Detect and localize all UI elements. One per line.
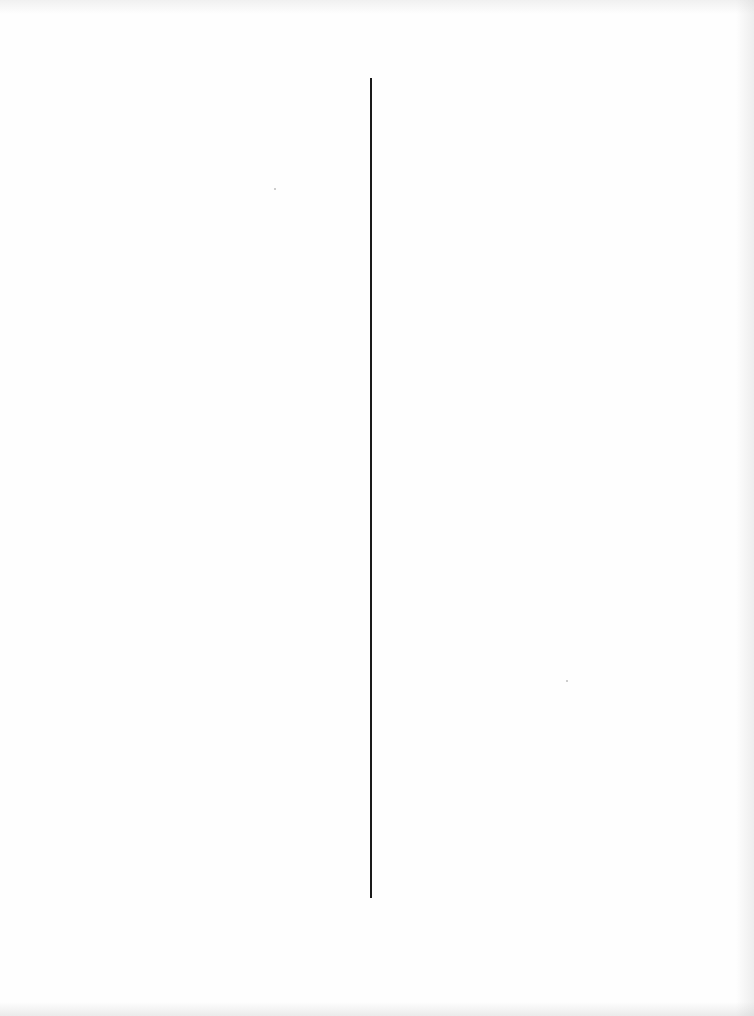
scan-shadow-top — [0, 0, 754, 14]
vertical-divider-line — [370, 78, 372, 898]
scanned-page — [0, 0, 754, 1016]
scan-shadow-right — [736, 0, 754, 1016]
scan-dust-speck — [566, 680, 568, 682]
scan-dust-speck — [274, 188, 276, 190]
scan-shadow-bottom — [0, 1002, 754, 1016]
